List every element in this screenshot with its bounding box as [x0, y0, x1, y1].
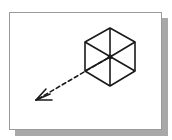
hexagon-center-point: [108, 55, 111, 58]
hexagon-spoke-diag-2: [110, 42, 135, 57]
hexagon-cube-icon: [85, 28, 135, 86]
diagram-canvas: [0, 0, 172, 140]
